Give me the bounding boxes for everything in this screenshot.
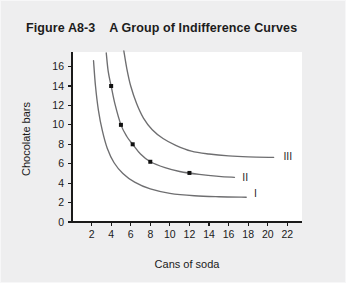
figure-title: Figure A8-3 A Group of Indifference Curv… (26, 21, 297, 35)
y-tick-label: 6 (58, 157, 64, 169)
y-axis-title: Chocolate bars (20, 102, 32, 176)
plot-panel-background (72, 52, 302, 222)
x-axis: 246810121416182022 (72, 222, 302, 240)
x-axis-title: Cans of soda (155, 258, 221, 270)
y-tick-label: 14 (52, 80, 64, 92)
y-tick-label: 0 (58, 216, 64, 228)
x-tick-label: 14 (203, 228, 215, 240)
x-tick-label: 4 (108, 228, 114, 240)
x-tick-label: 18 (242, 228, 254, 240)
data-point-marker (109, 84, 113, 88)
x-tick-label: 6 (128, 228, 134, 240)
data-point-marker (131, 142, 135, 146)
y-axis: 0246810121416 (52, 52, 72, 228)
y-tick-label: 8 (58, 138, 64, 150)
x-tick-label: 12 (184, 228, 196, 240)
x-tick-label: 16 (223, 228, 235, 240)
x-tick-label: 10 (164, 228, 176, 240)
y-tick-label: 12 (52, 99, 64, 111)
data-point-marker (148, 160, 152, 164)
data-point-marker (187, 171, 191, 175)
x-tick-label: 22 (281, 228, 293, 240)
curve-label-ii: II (242, 171, 248, 183)
x-tick-label: 2 (89, 228, 95, 240)
data-point-marker (119, 123, 123, 127)
x-tick-label: 8 (147, 228, 153, 240)
y-tick-label: 2 (58, 196, 64, 208)
y-tick-label: 16 (52, 60, 64, 72)
indifference-curves-chart: 0246810121416 246810121416182022 IIIIII … (0, 44, 346, 283)
figure-container: Figure A8-3 A Group of Indifference Curv… (0, 0, 346, 283)
y-tick-label: 10 (52, 118, 64, 130)
x-tick-label: 20 (262, 228, 274, 240)
curve-label-iii: III (283, 150, 292, 162)
chart-plot-area: 0246810121416 246810121416182022 IIIIII … (0, 44, 346, 283)
curve-label-i: I (254, 187, 257, 199)
y-tick-label: 4 (58, 177, 64, 189)
